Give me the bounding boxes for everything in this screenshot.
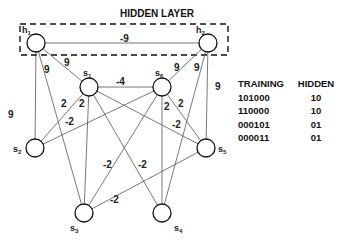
weight-label: -2: [110, 194, 119, 205]
weight-label: 9: [8, 109, 14, 120]
training-table: TRAINING HIDDEN 101000 10 110000 10 0001…: [238, 77, 336, 145]
node-h1: [27, 34, 45, 52]
node-label-s4: s4: [174, 223, 183, 234]
weight-label: 2: [178, 98, 184, 109]
node-h2: [199, 34, 217, 52]
node-label-s1: s1: [83, 68, 92, 79]
hidden-value: 10: [296, 104, 336, 118]
node-label-h1: h1: [22, 25, 32, 36]
table-row: 000101 01: [238, 118, 336, 132]
table-row: 110000 10: [238, 104, 336, 118]
node-s5: [197, 139, 215, 157]
node-s2: [26, 139, 44, 157]
edge-s6-s5: [162, 87, 206, 148]
table-row: 101000 10: [238, 91, 336, 105]
node-s1: [80, 78, 98, 96]
weight-label: 9: [194, 62, 200, 73]
weight-label: -2: [138, 159, 147, 170]
training-value: 000011: [238, 131, 296, 145]
node-label-s5: s5: [218, 144, 227, 155]
edge-h2-s4: [162, 43, 208, 213]
header-training: TRAINING: [238, 77, 296, 91]
node-label-s6: s6: [155, 68, 164, 79]
weight-labels: -9999999-422-222-2-2-2-2: [8, 33, 221, 205]
hidden-layer-title: HIDDEN LAYER: [120, 8, 195, 19]
node-label-s2: s2: [13, 144, 22, 155]
edge-s3-s5: [84, 148, 206, 213]
weight-label: 9: [44, 64, 50, 75]
weight-label: 9: [174, 62, 180, 73]
hidden-value: 01: [296, 131, 336, 145]
weight-label: 9: [215, 81, 221, 92]
nodes: h1h2s1s6s2s5s3s4: [13, 25, 227, 234]
node-s3: [75, 204, 93, 222]
weight-label: -2: [172, 119, 181, 130]
node-s4: [153, 204, 171, 222]
header-hidden: HIDDEN: [296, 77, 336, 91]
weight-label: -9: [120, 33, 129, 44]
node-s6: [153, 78, 171, 96]
weight-label: 2: [164, 101, 170, 112]
training-value: 101000: [238, 91, 296, 105]
training-value: 110000: [238, 104, 296, 118]
weight-label: -2: [103, 159, 112, 170]
weight-label: 2: [61, 98, 67, 109]
table-header: TRAINING HIDDEN: [238, 77, 336, 91]
edge-h2-s5: [206, 43, 208, 148]
edges: [35, 43, 208, 213]
table-row: 000011 01: [238, 131, 336, 145]
weight-label: 2: [79, 98, 85, 109]
node-label-s3: s3: [70, 223, 79, 234]
edge-s1-s2: [35, 87, 89, 148]
hidden-value: 01: [296, 118, 336, 132]
hidden-value: 10: [296, 91, 336, 105]
weight-label: -2: [65, 116, 74, 127]
edge-h1-s2: [35, 43, 36, 148]
training-value: 000101: [238, 118, 296, 132]
weight-label: 9: [64, 57, 70, 68]
edge-s1-s3: [84, 87, 89, 213]
weight-label: -4: [116, 76, 125, 87]
node-label-h2: h2: [196, 25, 206, 36]
